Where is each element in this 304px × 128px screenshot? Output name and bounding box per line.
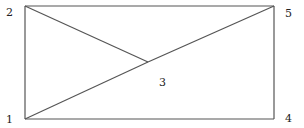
edge-2-3 — [25, 6, 148, 62]
node-label-1: 1 — [6, 113, 13, 126]
node-label-4: 4 — [285, 112, 292, 125]
edges-group — [25, 6, 274, 119]
node-label-3: 3 — [159, 76, 166, 89]
node-label-5: 5 — [285, 7, 292, 20]
node-label-2: 2 — [6, 6, 13, 19]
edge-1-3 — [25, 62, 148, 119]
edge-3-5 — [148, 6, 274, 62]
graph-diagram: 12345 — [0, 0, 304, 128]
